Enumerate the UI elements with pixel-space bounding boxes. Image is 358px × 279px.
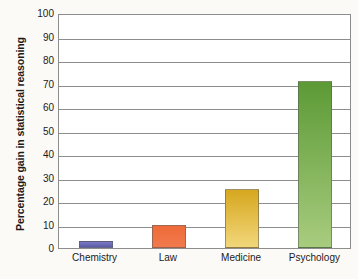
- x-axis-tick-label: Medicine: [221, 252, 261, 263]
- y-axis-tick-label: 20: [22, 197, 54, 207]
- bar-psychology: [298, 81, 332, 248]
- y-axis-tick-label: 0: [22, 244, 54, 254]
- bar-medicine: [225, 189, 259, 248]
- y-axis-tick-label: 100: [22, 9, 54, 19]
- y-axis-tick-label: 50: [22, 127, 54, 137]
- y-axis-tick-labels: 0102030405060708090100: [22, 14, 54, 249]
- plot-area: [58, 14, 351, 249]
- x-axis-tick-labels: ChemistryLawMedicinePsychology: [58, 252, 351, 272]
- y-axis-tick-label: 10: [22, 221, 54, 231]
- x-axis-tick-label: Chemistry: [72, 252, 117, 263]
- bars-group: [59, 15, 350, 248]
- bar-law: [152, 225, 186, 249]
- y-axis-tick-label: 70: [22, 80, 54, 90]
- y-axis-tick-label: 60: [22, 103, 54, 113]
- y-axis-tick-label: 80: [22, 56, 54, 66]
- x-axis-tick-label: Law: [159, 252, 177, 263]
- y-axis-tick-label: 90: [22, 33, 54, 43]
- y-axis-tick-label: 30: [22, 174, 54, 184]
- y-axis-tick-label: 40: [22, 150, 54, 160]
- bar-chart: Percentage gain in statistical reasoning…: [0, 0, 358, 279]
- bar-chemistry: [79, 241, 113, 248]
- x-axis-tick-label: Psychology: [289, 252, 340, 263]
